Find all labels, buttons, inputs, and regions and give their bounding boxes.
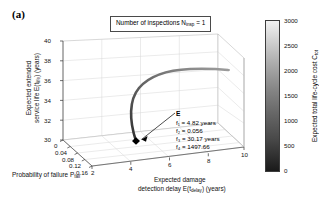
annotation-line-4: f₄ = 1497.66 [176,143,210,150]
colorbar-tick-2000: 2000 [284,67,298,74]
x-axis-label: Probability of failure Pfail [12,171,80,181]
colorbar-tick-500: 500 [284,142,294,149]
z-axis-ticks [60,41,63,140]
z-axis-label-line2: service life E(tlife) (years) [33,28,43,148]
y-tick-8: 8 [207,157,210,164]
x-tick-0: 0 [54,142,57,149]
colorbar-tick-2500: 2500 [284,42,298,49]
colorbar-label-sub: tot [314,50,319,55]
z-tick-30: 30 [44,136,51,143]
colorbar-tick-0: 0 [284,167,287,174]
chart-title-equals: = 1 [194,19,205,26]
z-axis-label-pre: service life E(t [33,83,40,123]
annotation-line-3: f₃ = 30.17 years [176,135,220,142]
z-axis-label-post: ) (years) [33,53,40,77]
z-tick-36: 36 [44,77,51,84]
x-axis-label-sub: fail [74,174,80,179]
colorbar-tick-1000: 1000 [284,117,298,124]
z-tick-40: 40 [44,37,51,44]
y-axis-label-line1: Expected damage [154,176,206,184]
y-axis-label-line2: detection delay E(tdelay) (years) [138,185,226,195]
colorbar-tick-1500: 1500 [284,92,298,99]
z-tick-34: 34 [44,97,51,104]
annotation-line-2: f₂ = 0.056 [176,127,203,134]
colorbar-label: Expected total life-cycle cost Ctot [311,20,319,172]
chart-title-prefix: Number of inspections N [116,19,186,26]
y-axis-label-sub: delay [191,188,202,193]
annotation-head: E [176,110,220,118]
z-axis-label-line1: Expected extended [25,28,33,148]
z-tick-38: 38 [44,57,51,64]
y-tick-4: 4 [129,165,132,172]
colorbar-gradient [265,20,280,172]
colorbar-label-pre: Expected total life-cycle cost C [311,55,318,142]
y-tick-2: 2 [91,169,94,176]
y-axis-label-post: ) (years) [202,185,226,192]
y-tick-6: 6 [168,161,171,168]
colorbar-tick-3000: 3000 [284,17,298,24]
y-axis-label-pre: detection delay E(t [138,185,191,192]
x-tick-012: 0.12 [69,162,81,169]
figure-panel-a: (a) Number of inspections Ninsp = 1 [0,0,319,204]
x-tick-004: 0.04 [55,149,67,156]
z-tick-32: 32 [44,117,51,124]
x-axis-label-pre: Probability of failure P [12,171,74,178]
annotation-line-1: f₁ = 4.82 years [176,119,216,126]
y-tick-10: 10 [241,151,248,158]
z-axis-label-sub: life [36,77,41,83]
solution-annotation: E f₁ = 4.82 years f₂ = 0.056 f₃ = 30.17 … [176,110,220,152]
chart-title-box: Number of inspections Ninsp = 1 [110,16,211,32]
